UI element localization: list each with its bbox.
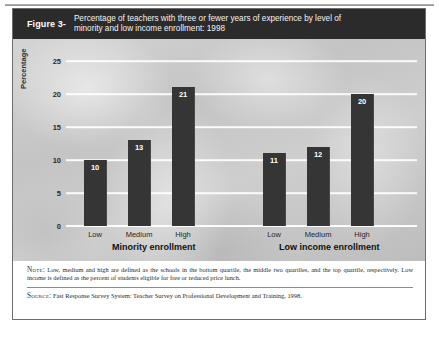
figure-number: Figure 3- bbox=[27, 19, 66, 29]
figure-page: Figure 3- Percentage of teachers with th… bbox=[0, 0, 439, 339]
chart-canvas: Percentage 0510152025101321111220LowMedi… bbox=[13, 39, 425, 261]
figure-title-line-2: minority and low income enrollment: 1998 bbox=[74, 24, 341, 35]
chart-plot-area: Percentage 0510152025101321111220LowMedi… bbox=[13, 39, 425, 261]
bar-value-label: 13 bbox=[128, 143, 151, 152]
bar-value-label: 20 bbox=[351, 97, 374, 106]
notes-divider bbox=[27, 287, 413, 288]
bar-value-label: 21 bbox=[172, 90, 195, 99]
bar: 21 bbox=[172, 87, 195, 226]
bar-series: 101321111220 bbox=[66, 39, 417, 261]
bar-value-label: 10 bbox=[84, 163, 107, 172]
page-top-rule bbox=[5, 4, 434, 6]
x-axis-group-label: Minority enrollment bbox=[66, 242, 242, 252]
x-axis-category-label: High bbox=[341, 230, 384, 239]
note-text: Note: Low, medium and high are defined a… bbox=[27, 266, 413, 283]
note-body: Low, medium and high are defined as the … bbox=[27, 266, 413, 281]
x-axis-category-label: Low bbox=[74, 230, 117, 239]
y-axis-title: Percentage bbox=[19, 49, 28, 89]
y-axis-tick-label: 20 bbox=[35, 90, 61, 99]
figure-title-line-1: Percentage of teachers with three or few… bbox=[74, 14, 341, 25]
bar: 13 bbox=[128, 140, 151, 226]
bar: 11 bbox=[263, 153, 286, 226]
source-body: Fast Response Survey System: Teacher Sur… bbox=[51, 292, 301, 299]
x-axis-category-label: Medium bbox=[297, 230, 340, 239]
source-label: Source: bbox=[27, 292, 51, 300]
bar-value-label: 12 bbox=[307, 150, 330, 159]
x-axis-category-label: Medium bbox=[118, 230, 161, 239]
y-axis-tick-label: 0 bbox=[35, 222, 61, 231]
bar: 20 bbox=[351, 94, 374, 226]
y-axis-tick-label: 10 bbox=[35, 156, 61, 165]
bar: 12 bbox=[307, 147, 330, 226]
x-axis-group-label: Low income enrollment bbox=[242, 242, 418, 252]
note-label: Note: bbox=[27, 266, 45, 274]
x-axis-category-label: Low bbox=[253, 230, 296, 239]
figure-title: Percentage of teachers with three or few… bbox=[74, 14, 341, 35]
y-axis-tick-label: 15 bbox=[35, 123, 61, 132]
figure-notes: Note: Low, medium and high are defined a… bbox=[13, 261, 425, 288]
figure-source: Source: Fast Response Survey System: Tea… bbox=[13, 288, 425, 300]
y-axis-tick-label: 5 bbox=[35, 189, 61, 198]
y-axis-tick-label: 25 bbox=[35, 57, 61, 66]
bar-value-label: 11 bbox=[263, 156, 286, 165]
bar: 10 bbox=[84, 160, 107, 226]
figure-frame: Figure 3- Percentage of teachers with th… bbox=[12, 8, 426, 320]
x-axis-category-label: High bbox=[162, 230, 205, 239]
figure-title-bar: Figure 3- Percentage of teachers with th… bbox=[13, 9, 425, 39]
